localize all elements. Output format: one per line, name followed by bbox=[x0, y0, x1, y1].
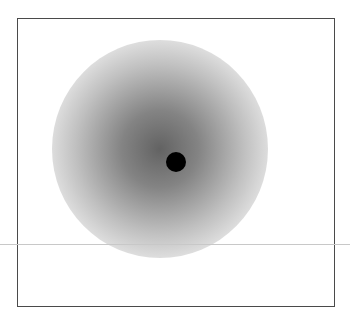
horizontal-line bbox=[0, 244, 350, 245]
center-dot bbox=[166, 152, 186, 172]
gaussian-blob bbox=[52, 40, 268, 258]
